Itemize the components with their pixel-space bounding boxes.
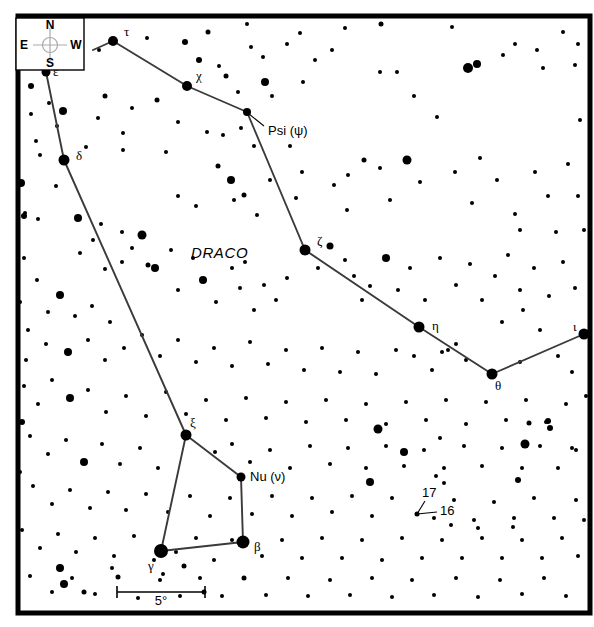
field-star <box>103 267 107 271</box>
star-delta <box>59 155 70 166</box>
field-star <box>17 179 25 187</box>
field-star <box>396 288 400 292</box>
field-star <box>423 298 427 302</box>
field-star <box>285 276 289 280</box>
field-star <box>182 564 187 569</box>
field-star <box>438 436 442 440</box>
field-star <box>538 328 542 332</box>
field-star <box>570 446 574 450</box>
field-star <box>182 39 188 45</box>
field-star <box>213 450 217 454</box>
field-star <box>31 484 35 488</box>
field-star <box>212 346 216 350</box>
field-star <box>151 264 159 272</box>
star-tau <box>108 36 118 46</box>
field-star <box>158 578 162 582</box>
field-star <box>422 448 426 452</box>
field-star <box>403 156 412 165</box>
field-star <box>532 266 536 270</box>
field-star <box>446 348 450 352</box>
field-star <box>360 298 364 302</box>
field-star <box>533 170 537 174</box>
field-star <box>345 208 349 212</box>
field-star <box>320 536 324 540</box>
field-star <box>343 26 347 30</box>
field-star <box>547 425 553 431</box>
field-star <box>80 458 88 466</box>
field-star <box>28 434 32 438</box>
star-nu <box>237 473 246 482</box>
field-star <box>435 115 439 119</box>
field-star <box>320 346 324 350</box>
field-star <box>194 536 198 540</box>
field-star <box>130 246 134 250</box>
field-star <box>521 308 525 312</box>
field-star <box>188 494 192 498</box>
field-star <box>362 158 367 163</box>
field-star <box>121 131 125 135</box>
field-star <box>221 133 225 137</box>
field-star <box>96 116 100 120</box>
field-star <box>378 166 382 170</box>
field-star <box>266 362 270 366</box>
field-star <box>252 144 256 148</box>
field-star <box>93 592 97 596</box>
field-star <box>36 217 40 221</box>
field-star <box>576 194 580 198</box>
sky-map: τχPsi (ψ)ζηθιεδξNu (ν)βγ 1716 DRACO N S … <box>0 0 594 627</box>
field-star <box>440 538 444 542</box>
field-star <box>132 534 136 538</box>
star-number-label-17: 17 <box>422 485 436 500</box>
field-star <box>68 488 72 492</box>
star-label-beta: β <box>254 539 261 554</box>
field-star <box>38 153 42 157</box>
field-star <box>217 64 221 68</box>
field-star <box>164 150 168 154</box>
field-star <box>328 578 332 582</box>
field-star <box>176 338 180 342</box>
field-star <box>86 338 90 342</box>
field-star <box>492 500 496 504</box>
field-star <box>204 398 208 402</box>
field-star <box>26 328 30 332</box>
field-star <box>518 228 522 232</box>
field-star <box>484 400 488 404</box>
field-star <box>564 594 568 598</box>
field-star <box>541 66 545 70</box>
field-star <box>420 556 424 560</box>
field-star <box>542 576 546 580</box>
field-star <box>493 274 497 278</box>
field-star <box>228 496 232 500</box>
field-star <box>304 420 308 424</box>
field-star <box>144 414 148 418</box>
field-star <box>306 594 310 598</box>
field-star <box>332 183 336 187</box>
star-label-theta: θ <box>495 378 501 393</box>
field-star <box>138 446 142 450</box>
field-star <box>360 538 364 542</box>
field-star <box>224 418 228 422</box>
field-star <box>104 410 108 414</box>
field-star <box>379 22 384 27</box>
field-star <box>390 595 394 599</box>
field-star <box>232 198 236 202</box>
field-star <box>532 496 536 500</box>
field-star <box>242 576 247 581</box>
field-star <box>174 550 178 554</box>
field-star <box>300 170 304 174</box>
field-star <box>524 398 528 402</box>
field-star <box>395 70 399 74</box>
star-label-gamma: γ <box>147 558 154 573</box>
field-star <box>338 370 342 374</box>
field-star <box>24 358 28 362</box>
field-star <box>122 346 126 350</box>
star-beta <box>237 536 250 549</box>
field-star <box>546 194 550 198</box>
field-star <box>64 348 72 356</box>
field-star <box>286 576 290 580</box>
field-star <box>242 193 247 198</box>
field-star <box>515 477 521 483</box>
field-star <box>418 180 422 184</box>
field-star <box>290 514 294 518</box>
field-star <box>248 340 252 344</box>
